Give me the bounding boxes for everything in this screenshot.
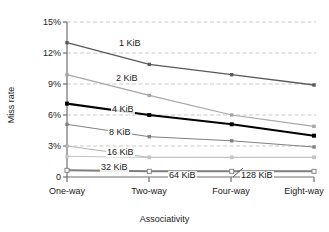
data-point (147, 169, 151, 173)
plot-area (0, 0, 329, 232)
data-point (65, 155, 68, 158)
series-label-32-kib: 32 KiB (100, 163, 129, 172)
series-label-4-kib: 4 KiB (111, 105, 135, 114)
data-point (65, 168, 69, 172)
x-tick-label-four-way: Four-way (198, 186, 264, 196)
data-point (230, 139, 233, 142)
data-point (230, 113, 233, 116)
series-8-kib (65, 123, 315, 149)
data-point (148, 135, 151, 138)
data-point (312, 134, 316, 138)
data-point (312, 156, 315, 159)
x-tick-label-two-way: Two-way (116, 186, 182, 196)
data-point (148, 156, 151, 159)
data-series-layer (65, 41, 316, 173)
data-point (147, 113, 151, 117)
series-label-2-kib: 2 KiB (115, 74, 139, 83)
data-point (65, 123, 68, 126)
series-4-kib (65, 102, 316, 138)
x-tick-label-one-way: One-way (34, 186, 100, 196)
miss-rate-vs-associativity-chart: Miss rate 15% 12% 9% 6% 3% 0 1 KiB2 (0, 0, 329, 232)
x-axis-title: Associativity (0, 214, 329, 224)
data-point (230, 73, 233, 76)
axis-lines (63, 22, 314, 182)
data-point (312, 83, 315, 86)
data-point (230, 122, 234, 126)
series-label-8-kib: 8 KiB (108, 128, 132, 137)
series-label-16-kib: 16 KiB (106, 148, 135, 157)
data-point (312, 145, 315, 148)
series-32-kib (65, 155, 315, 159)
data-point (312, 125, 315, 128)
data-point (148, 94, 151, 97)
data-point (65, 144, 68, 147)
series-label-64-kib: 64 KiB (168, 171, 197, 180)
data-point (65, 73, 68, 76)
x-tick-label-eight-way: Eight-way (280, 186, 328, 196)
series-label-128-kib: 128 KiB (240, 171, 274, 180)
data-point (65, 102, 69, 106)
data-point (230, 156, 233, 159)
data-point (148, 63, 151, 66)
series-label-1-kib: 1 KiB (118, 39, 142, 48)
series-1-kib (65, 41, 315, 87)
data-point (312, 169, 316, 173)
data-point (230, 169, 234, 173)
data-point (65, 41, 68, 44)
